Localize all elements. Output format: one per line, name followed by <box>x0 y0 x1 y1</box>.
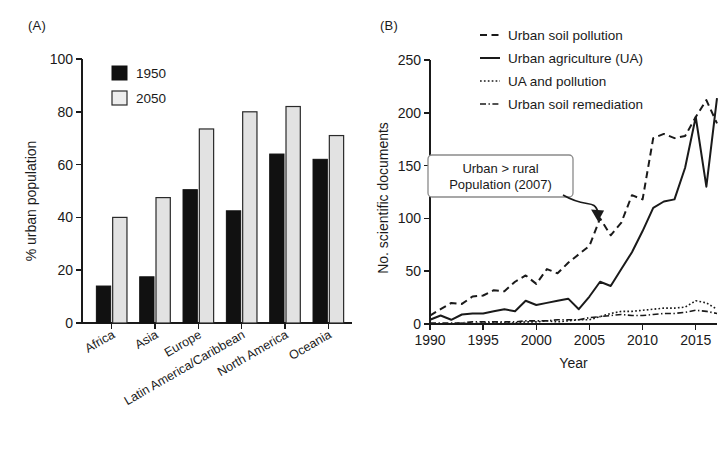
bar-2050-africa <box>113 217 127 323</box>
panel-a-y-axis-title: % urban population <box>23 141 39 262</box>
panel-a-category-label: Africa <box>83 327 118 355</box>
panel-b-xtick-label: 1990 <box>414 332 445 348</box>
panel-a-ytick-label: 60 <box>57 157 73 173</box>
panel-b-xtick-label: 2015 <box>680 332 711 348</box>
panel-b-legend-label: Urban soil pollution <box>508 28 623 43</box>
panel-b-ytick-label: 100 <box>398 210 422 226</box>
panel-a-svg: 020406080100 AfricaAsiaEuropeLatin Ameri… <box>0 0 372 466</box>
bar-2050-north-america <box>286 107 300 323</box>
series-line-urban-soil-remediation <box>430 310 717 323</box>
bar-1950-africa <box>96 286 110 323</box>
panel-b-x-axis-title: Year <box>559 355 588 371</box>
bar-1950-oceania <box>313 159 327 323</box>
series-line-urban-soil-pollution <box>430 100 717 315</box>
annotation-line-2: Population (2007) <box>449 177 552 192</box>
panel-b-xtick-label: 1995 <box>468 332 499 348</box>
bar-2050-europe <box>199 129 213 323</box>
panel-b-y-axis-title: No. scientific documents <box>375 122 391 274</box>
panel-a-label: (A) <box>28 18 46 33</box>
panel-b-ytick-label: 0 <box>413 316 421 332</box>
panel-b-line-chart: (B) 050100150200250199019952000200520102… <box>372 0 728 466</box>
panel-b-xtick-label: 2000 <box>521 332 552 348</box>
panel-a-ytick-label: 40 <box>57 209 73 225</box>
panel-a-bar-chart: (A) 020406080100 AfricaAsiaEuropeLatin A… <box>0 0 372 466</box>
panel-b-annotation: Urban > ruralPopulation (2007) <box>428 155 604 221</box>
figure-container: (A) 020406080100 AfricaAsiaEuropeLatin A… <box>0 0 728 466</box>
panel-a-category-labels: AfricaAsiaEuropeLatin America/CaribbeanN… <box>83 327 334 408</box>
panel-a-ytick-label: 20 <box>57 262 73 278</box>
panel-a-legend-label-2050: 2050 <box>136 91 166 106</box>
bar-2050-oceania <box>329 136 343 323</box>
panel-a-y-axis-title-text: % urban population <box>23 141 39 262</box>
panel-a-ytick-label: 80 <box>57 104 73 120</box>
panel-b-xtick-label: 2005 <box>574 332 605 348</box>
series-line-urban-agriculture-ua- <box>430 98 717 320</box>
panel-b-ytick-label: 200 <box>398 105 422 121</box>
panel-b-legend-label: Urban soil remediation <box>508 97 643 112</box>
panel-b-svg: 050100150200250199019952000200520102015 … <box>372 0 728 466</box>
bar-1950-asia <box>140 277 154 323</box>
panel-a-bars <box>96 107 343 329</box>
panel-b-ytick-label: 150 <box>398 158 422 174</box>
panel-a-legend: 19502050 <box>112 66 166 106</box>
annotation-line-1: Urban > rural <box>462 161 538 176</box>
panel-a-ytick-label: 100 <box>50 51 74 67</box>
bar-1950-europe <box>183 190 197 323</box>
panel-a-category-label: Asia <box>132 327 160 351</box>
bar-1950-latin-america-caribbean <box>226 211 240 323</box>
bar-2050-asia <box>156 198 170 323</box>
bar-2050-latin-america-caribbean <box>243 112 257 323</box>
panel-b-ytick-label: 250 <box>398 52 422 68</box>
annotation-arrowhead <box>591 209 604 221</box>
panel-b-ytick-label: 50 <box>405 263 421 279</box>
panel-a-ytick-label: 0 <box>65 315 73 331</box>
bar-1950-north-america <box>270 154 284 323</box>
panel-a-category-label: Oceania <box>286 327 333 362</box>
panel-b-xtick-label: 2010 <box>627 332 658 348</box>
panel-b-series-lines <box>430 98 717 324</box>
panel-a-legend-label-1950: 1950 <box>136 66 166 81</box>
panel-b-label: (B) <box>380 18 398 33</box>
panel-b-legend-label: UA and pollution <box>508 74 606 89</box>
panel-a-legend-swatch-2050 <box>112 91 127 105</box>
panel-b-legend: Urban soil pollutionUrban agriculture (U… <box>480 28 643 112</box>
panel-a-legend-swatch-1950 <box>112 66 127 80</box>
panel-b-legend-label: Urban agriculture (UA) <box>508 51 643 66</box>
